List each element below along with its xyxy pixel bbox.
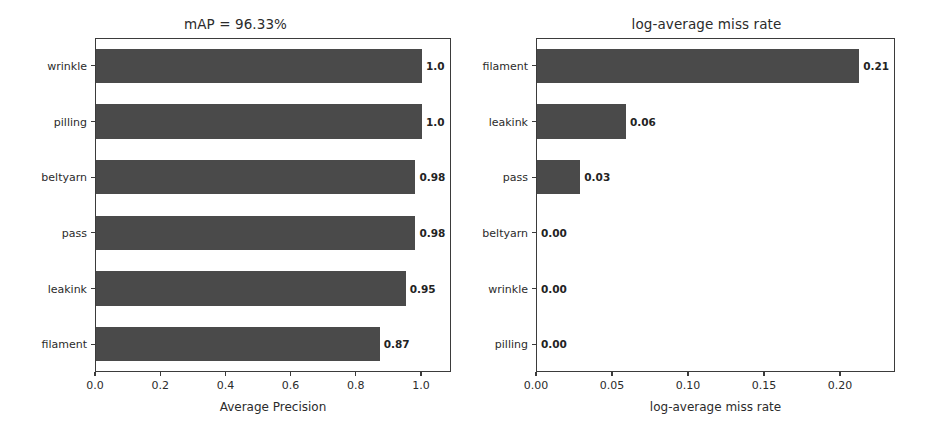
x-tick-label: 0.6 [282, 379, 300, 392]
y-tick-label-pass: pass [406, 171, 528, 184]
chart-panel-average-precision: mAP = 96.33%wrinkle1.0pilling1.0beltyarn… [0, 0, 471, 433]
x-tick-label: 0.00 [524, 379, 549, 392]
chart-title: mAP = 96.33% [0, 16, 471, 32]
y-tick-mark [91, 232, 95, 233]
x-tick-mark [763, 372, 764, 376]
y-tick-mark [532, 288, 536, 289]
x-tick-label: 0.8 [347, 379, 365, 392]
y-tick-mark [91, 344, 95, 345]
bar-filament [96, 327, 380, 362]
bar-pass [537, 160, 580, 195]
chart-panel-log-average-miss-rate: log-average miss ratefilament0.21leakink… [471, 0, 942, 433]
x-tick-mark [160, 372, 161, 376]
y-tick-mark [91, 288, 95, 289]
y-tick-label-pilling: pilling [406, 338, 528, 351]
bar-value-pass: 0.03 [584, 171, 610, 183]
x-tick-label: 0.10 [676, 379, 701, 392]
y-tick-mark [532, 121, 536, 122]
y-tick-mark [532, 65, 536, 66]
x-tick-label: 0.2 [151, 379, 169, 392]
bar-leakink [537, 104, 626, 139]
y-tick-label-beltyarn: beltyarn [0, 171, 87, 184]
y-tick-mark [91, 65, 95, 66]
x-tick-label: 0.20 [828, 379, 853, 392]
bar-pass [96, 216, 415, 251]
y-tick-label-leakink: leakink [406, 115, 528, 128]
bar-value-filament: 0.21 [863, 60, 889, 72]
x-tick-mark [687, 372, 688, 376]
x-tick-mark [290, 372, 291, 376]
y-tick-label-filament: filament [0, 338, 87, 351]
x-tick-mark [420, 372, 421, 376]
y-tick-label-wrinkle: wrinkle [406, 282, 528, 295]
x-tick-mark [611, 372, 612, 376]
bar-value-leakink: 0.06 [630, 116, 656, 128]
plot-area [95, 38, 451, 372]
y-tick-mark [91, 121, 95, 122]
y-tick-label-wrinkle: wrinkle [0, 59, 87, 72]
x-tick-mark [839, 372, 840, 376]
bar-wrinkle [96, 49, 422, 84]
x-tick-label: 1.0 [412, 379, 430, 392]
y-tick-label-beltyarn: beltyarn [406, 226, 528, 239]
x-tick-label: 0.15 [752, 379, 777, 392]
bar-pilling [96, 104, 422, 139]
x-axis-title: log-average miss rate [650, 400, 781, 414]
x-tick-label: 0.0 [86, 379, 104, 392]
bar-leakink [96, 271, 406, 306]
bar-value-wrinkle: 0.00 [541, 283, 567, 295]
y-tick-label-filament: filament [406, 59, 528, 72]
figure-canvas: mAP = 96.33%wrinkle1.0pilling1.0beltyarn… [0, 0, 942, 433]
x-tick-mark [94, 372, 95, 376]
bar-value-pilling: 0.00 [541, 338, 567, 350]
x-tick-label: 0.05 [600, 379, 625, 392]
y-tick-label-pass: pass [0, 226, 87, 239]
y-tick-label-leakink: leakink [0, 282, 87, 295]
x-axis-title: Average Precision [220, 400, 327, 414]
x-tick-mark [355, 372, 356, 376]
x-tick-label: 0.4 [217, 379, 235, 392]
y-tick-label-pilling: pilling [0, 115, 87, 128]
y-tick-mark [91, 177, 95, 178]
bar-beltyarn [96, 160, 415, 195]
y-tick-mark [532, 232, 536, 233]
x-tick-mark [535, 372, 536, 376]
bar-filament [537, 49, 859, 84]
bar-value-beltyarn: 0.00 [541, 227, 567, 239]
y-tick-mark [532, 344, 536, 345]
y-tick-mark [532, 177, 536, 178]
chart-title: log-average miss rate [471, 16, 942, 32]
plot-area [536, 38, 895, 372]
x-tick-mark [225, 372, 226, 376]
